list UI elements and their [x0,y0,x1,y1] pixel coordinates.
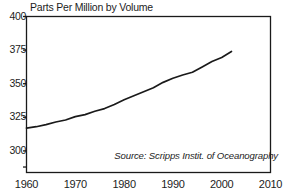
x-tick-label: 1960 [15,178,38,190]
x-tick-label: 1990 [161,178,184,190]
x-tick-label: 1980 [112,178,135,190]
x-axis-tick-labels: 196019701980199020002010 [0,0,283,196]
x-tick-label: 2010 [259,178,282,190]
x-tick-label: 1970 [64,178,87,190]
x-tick-label: 2000 [210,178,233,190]
chart-container: Parts Per Million by Volume 300325350375… [0,0,283,196]
source-attribution: Source: Scripps Instit. of Oceanography [114,150,278,161]
